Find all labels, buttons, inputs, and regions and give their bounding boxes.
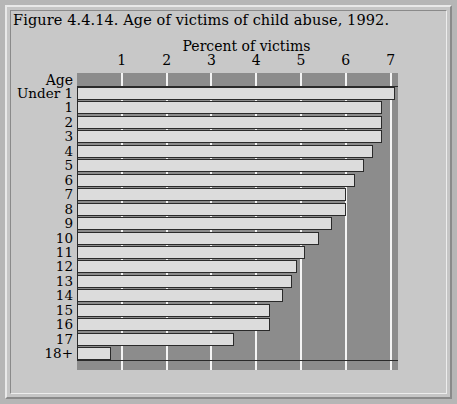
bar-8	[77, 203, 346, 216]
age-label-16: 16	[0, 317, 73, 332]
x-tick-label-3: 3	[199, 52, 223, 68]
bar-row: 18+	[0, 346, 457, 361]
x-tick-label-1: 1	[110, 52, 134, 68]
bar-11	[77, 246, 305, 259]
bar-14	[77, 289, 283, 302]
age-label-7: 7	[0, 187, 73, 202]
bar-row: 5	[0, 158, 457, 173]
age-label-4: 4	[0, 144, 73, 159]
bar-15	[77, 304, 270, 317]
figure-title: Figure 4.4.14. Age of victims of child a…	[13, 12, 389, 28]
age-label-18+: 18+	[0, 346, 73, 361]
age-label-1: 1	[0, 100, 73, 115]
x-tick-label-2: 2	[155, 52, 179, 68]
bar-18+	[77, 347, 111, 360]
bar-1	[77, 101, 382, 114]
bar-row: 9	[0, 216, 457, 231]
bar-12	[77, 260, 297, 273]
bar-5	[77, 159, 364, 172]
age-label-3: 3	[0, 129, 73, 144]
x-tick-label-5: 5	[289, 52, 313, 68]
x-tick-label-7: 7	[379, 52, 403, 68]
bar-3	[77, 130, 382, 143]
age-label-2: 2	[0, 115, 73, 130]
bar-row: 7	[0, 187, 457, 202]
bar-2	[77, 116, 382, 129]
bar-17	[77, 333, 234, 346]
bar-16	[77, 318, 270, 331]
bar-13	[77, 275, 292, 288]
bar-under-1	[77, 87, 395, 100]
age-label-under-1: Under 1	[0, 86, 73, 101]
bar-6	[77, 174, 355, 187]
bar-4	[77, 145, 373, 158]
bar-10	[77, 232, 319, 245]
bar-9	[77, 217, 332, 230]
age-label-5: 5	[0, 158, 73, 173]
age-label-6: 6	[0, 173, 73, 188]
age-label-8: 8	[0, 202, 73, 217]
x-tick-label-6: 6	[334, 52, 358, 68]
age-label-9: 9	[0, 216, 73, 231]
bar-row: 16	[0, 317, 457, 332]
x-tick-label-4: 4	[244, 52, 268, 68]
bar-7	[77, 188, 346, 201]
